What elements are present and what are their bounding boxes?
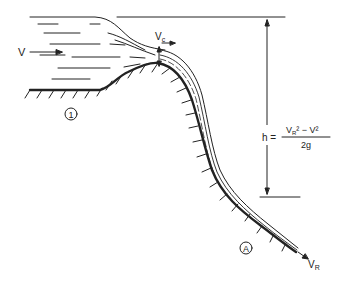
spillway-flow-diagram: V Vc VR 1 A h = VR² − V² 2g xyxy=(0,0,344,282)
formula-numerator: VR² − V² xyxy=(286,125,319,136)
region-1-label: 1 xyxy=(68,110,73,120)
critical-velocity-label: Vc xyxy=(155,31,166,43)
final-velocity-label: VR xyxy=(308,259,320,271)
upstream-velocity-label: V xyxy=(18,46,26,58)
channel-bed xyxy=(30,63,296,252)
formula-lhs: h = xyxy=(262,132,276,143)
formula-denominator: 2g xyxy=(301,140,311,150)
region-a-label: A xyxy=(243,244,249,254)
